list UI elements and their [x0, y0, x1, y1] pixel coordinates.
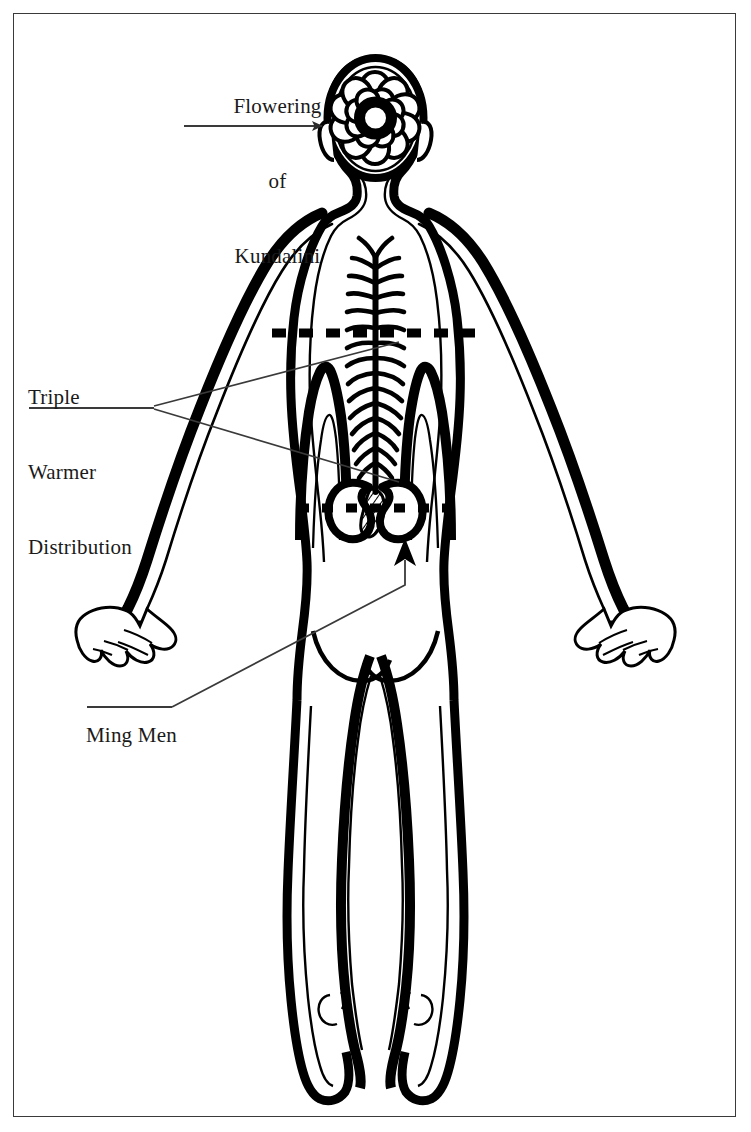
label-triple-line2: Warmer: [28, 460, 258, 485]
label-kundalini-line3: Kundalini: [175, 244, 380, 269]
leg-left-inner: [303, 706, 333, 1086]
buttock-right: [364, 631, 438, 681]
label-ming-men: Ming Men: [86, 673, 177, 798]
label-ming-men-line1: Ming Men: [86, 723, 177, 748]
label-triple-line1: Triple: [28, 385, 258, 410]
label-kundalini-line2: of: [175, 169, 380, 194]
label-triple-warmer-distribution: Triple Warmer Distribution: [28, 335, 258, 610]
hand-right: [575, 607, 675, 666]
page: Flowering of Kundalini Triple Warmer Dis…: [0, 0, 751, 1132]
leg-left-crotch: [341, 656, 370, 1088]
ankle-right-marking: [407, 992, 433, 1025]
label-flowering-of-kundalini: Flowering of Kundalini: [175, 44, 380, 319]
label-kundalini-line1: Flowering: [175, 94, 380, 119]
leg-right-crotch: [381, 656, 410, 1088]
leg-right-inner: [418, 706, 448, 1086]
label-triple-line3: Distribution: [28, 535, 258, 560]
buttock-left: [313, 631, 390, 681]
ankle-left-marking: [319, 992, 345, 1025]
hand-left: [76, 607, 176, 666]
